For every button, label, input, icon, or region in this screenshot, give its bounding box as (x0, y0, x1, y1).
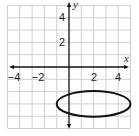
y-axis-label: y (72, 0, 78, 10)
x-tick-label: −2 (32, 71, 45, 83)
y-tick-label: 4 (59, 11, 65, 23)
coordinate-plane: x y −4 −2 2 4 4 2 (0, 0, 139, 136)
x-tick-label: −4 (8, 71, 21, 83)
x-axis-label: x (123, 52, 129, 64)
y-axis (67, 2, 71, 129)
y-tick-label: 2 (59, 36, 65, 48)
x-tick-label: 2 (91, 71, 97, 83)
x-tick-label: 4 (115, 71, 121, 83)
